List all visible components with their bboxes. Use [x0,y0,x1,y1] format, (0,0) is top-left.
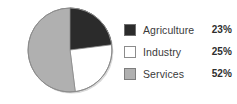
legend-label-agriculture: Agriculture [143,21,194,39]
pie-chart [26,6,114,94]
pie-chart-figure: Agriculture 23% Industry 25% Services 52… [0,0,237,104]
pie-slice-industry[interactable] [70,45,112,92]
legend-value-agriculture: 23% [212,21,232,39]
legend-item-agriculture[interactable]: Agriculture 23% [124,21,232,41]
swatch-services-icon [124,68,136,80]
legend-item-services[interactable]: Services 52% [124,65,232,85]
legend-label-services: Services [143,65,184,83]
legend-value-services: 52% [212,65,232,83]
pie-slice-services[interactable] [28,8,75,92]
swatch-industry-icon [124,46,136,58]
chart-legend: Agriculture 23% Industry 25% Services 52… [124,21,232,87]
swatch-agriculture-icon [124,24,136,36]
legend-item-industry[interactable]: Industry 25% [124,43,232,63]
legend-value-industry: 25% [212,43,232,61]
pie-slice-agriculture[interactable] [70,8,112,50]
legend-label-industry: Industry [143,43,181,61]
